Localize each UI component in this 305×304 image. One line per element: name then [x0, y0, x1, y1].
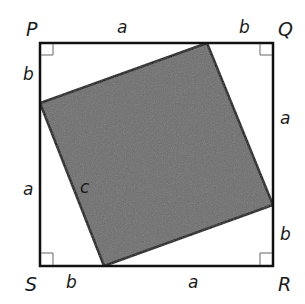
- side-label-top-a: a: [117, 17, 127, 37]
- side-label-bottom-a: a: [188, 272, 198, 292]
- right-angle-mark-q: [260, 44, 272, 55]
- side-label-right-a: a: [280, 108, 290, 128]
- side-label-hypotenuse-c: c: [80, 177, 90, 197]
- right-angle-mark-r: [260, 253, 272, 265]
- side-label-left-b: b: [23, 64, 34, 84]
- inner-square-c: [40, 43, 273, 266]
- vertex-label-s: S: [25, 273, 37, 295]
- vertex-label-p: P: [26, 18, 38, 40]
- side-label-top-b: b: [239, 17, 250, 37]
- vertex-label-r: R: [278, 273, 291, 295]
- vertex-label-q: Q: [278, 18, 293, 40]
- side-label-bottom-b: b: [66, 272, 77, 292]
- right-angle-mark-s: [41, 253, 53, 265]
- right-angle-mark-p: [41, 44, 53, 55]
- side-label-right-b: b: [280, 224, 291, 244]
- pythagoras-diagram: P Q R S a b b a a b b a c: [0, 0, 305, 304]
- side-label-left-a: a: [23, 179, 33, 199]
